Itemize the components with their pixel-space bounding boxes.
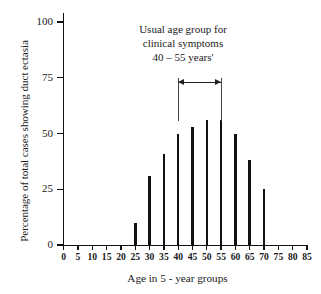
- y-axis-title: Percentage of total cases showing duct e…: [18, 21, 30, 261]
- bar: [263, 189, 266, 245]
- bar: [248, 160, 251, 245]
- annotation-line-2: clinical symptoms: [118, 36, 248, 50]
- x-axis-line: [63, 245, 308, 246]
- annotation-text: Usual age group for clinical symptoms 40…: [118, 22, 248, 64]
- bar: [234, 134, 237, 246]
- y-tick-label: 100: [13, 16, 53, 27]
- x-tick-mark: [106, 246, 107, 250]
- x-tick-mark: [249, 246, 250, 250]
- chart-figure: Percentage of total cases showing duct e…: [0, 0, 321, 294]
- x-tick-mark: [63, 246, 64, 250]
- x-tick-mark: [178, 246, 179, 250]
- bar: [148, 176, 151, 245]
- y-axis-line: [63, 13, 64, 246]
- x-tick-mark: [135, 246, 136, 250]
- annotation-line-1: Usual age group for: [118, 22, 248, 36]
- y-tick-label: 25: [13, 183, 53, 194]
- y-tick-label: 0: [13, 239, 53, 250]
- annotation-arrow-head-right: [215, 79, 221, 85]
- bar: [163, 154, 166, 245]
- x-tick-mark: [149, 246, 150, 250]
- y-tick-mark: [57, 189, 63, 190]
- x-axis-title: Age in 5 - year groups: [45, 272, 310, 284]
- y-tick-mark: [57, 21, 63, 22]
- x-tick-mark: [206, 246, 207, 250]
- x-tick-mark: [77, 246, 78, 250]
- x-tick-mark: [278, 246, 279, 250]
- x-tick-mark: [163, 246, 164, 250]
- y-tick-label: 75: [13, 72, 53, 83]
- x-tick-mark: [292, 246, 293, 250]
- y-tick-mark: [57, 77, 63, 78]
- bar: [206, 120, 209, 245]
- x-tick-mark: [220, 246, 221, 250]
- x-tick-mark: [235, 246, 236, 250]
- x-tick-label: 85: [295, 252, 319, 262]
- annotation-line-3: 40 – 55 years': [118, 50, 248, 64]
- bar: [134, 223, 137, 245]
- x-tick-mark: [192, 246, 193, 250]
- x-tick-mark: [306, 246, 307, 250]
- x-tick-mark: [120, 246, 121, 250]
- x-tick-mark: [263, 246, 264, 250]
- annotation-arrow-head-left: [178, 79, 184, 85]
- y-tick-mark: [57, 133, 63, 134]
- y-tick-label: 50: [13, 128, 53, 139]
- x-tick-mark: [92, 246, 93, 250]
- bar: [191, 127, 194, 245]
- bar: [220, 120, 223, 245]
- bar: [177, 134, 180, 246]
